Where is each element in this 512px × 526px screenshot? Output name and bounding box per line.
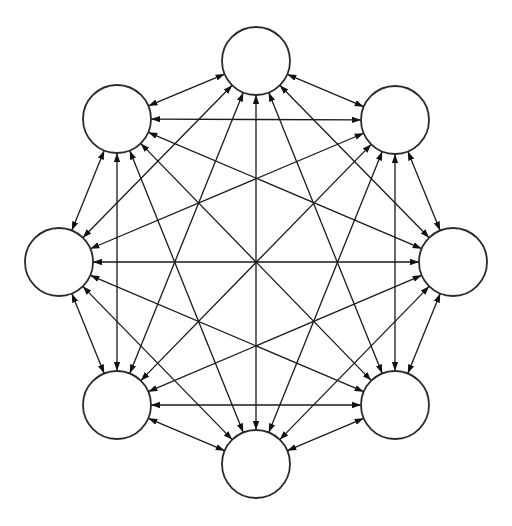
node-circle <box>83 371 151 439</box>
node-circle <box>222 430 290 498</box>
edge-n-top-n-top-right <box>287 74 363 106</box>
node-circle <box>222 27 290 95</box>
node-circle <box>419 228 487 296</box>
edge-n-left-n-top-left <box>72 151 104 231</box>
graph-node-n-top-left <box>83 85 151 153</box>
graph-node-n-left <box>25 228 93 296</box>
graph-node-n-right <box>419 228 487 296</box>
graph-node-n-top-right <box>361 86 429 154</box>
edge-n-bottom-n-bottom-left <box>148 418 224 450</box>
node-circle <box>25 228 93 296</box>
edge-n-bottom-left-n-left <box>72 294 104 374</box>
edge-n-top-right-n-right <box>408 151 440 230</box>
node-circle <box>361 86 429 154</box>
edge-n-bottom-right-n-bottom <box>287 418 363 450</box>
graph-node-n-top <box>222 27 290 95</box>
edge-n-right-n-bottom-right <box>408 294 440 374</box>
edge-n-top-n-top-left <box>148 74 224 106</box>
graph-node-n-bottom-right <box>361 371 429 439</box>
complete-graph-diagram <box>0 0 512 526</box>
graph-node-n-bottom <box>222 430 290 498</box>
node-circle <box>83 85 151 153</box>
edge-n-top-right-n-top-left <box>151 119 361 120</box>
node-circle <box>361 371 429 439</box>
graph-node-n-bottom-left <box>83 371 151 439</box>
